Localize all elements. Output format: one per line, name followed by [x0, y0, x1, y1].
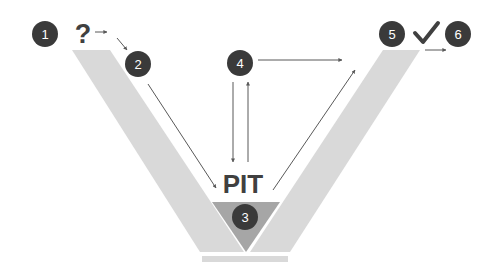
step-4-label: 4	[236, 56, 243, 71]
step-1: 1	[32, 21, 58, 47]
base-bar	[202, 256, 288, 262]
arrow-to-step-2	[117, 38, 127, 50]
step-3: 3	[232, 204, 258, 230]
step-1-label: 1	[41, 27, 48, 42]
step-2: 2	[125, 51, 151, 77]
left-band	[72, 50, 244, 252]
step-3-label: 3	[241, 210, 248, 225]
step-5-label: 5	[388, 27, 395, 42]
step-6: 6	[445, 21, 471, 47]
right-band	[250, 50, 420, 252]
step-6-label: 6	[454, 27, 461, 42]
step-4: 4	[227, 50, 253, 76]
question-mark-icon: ?	[75, 19, 92, 49]
pit-label: PIT	[223, 169, 264, 199]
v-diagram: 1 2 3 4 5 6 ? PIT	[0, 0, 498, 277]
check-mark-icon	[415, 23, 438, 42]
step-5: 5	[379, 21, 405, 47]
step-2-label: 2	[134, 57, 141, 72]
